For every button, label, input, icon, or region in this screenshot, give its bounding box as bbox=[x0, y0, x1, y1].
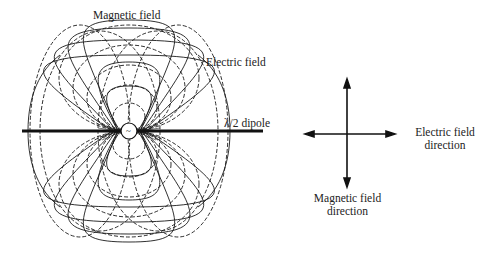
magnetic-direction-label: Magnetic field direction bbox=[305, 192, 390, 218]
magnetic-direction-line2: direction bbox=[305, 205, 390, 218]
electric-field-label: Electric field bbox=[206, 56, 266, 69]
magnetic-field-label: Magnetic field bbox=[93, 9, 160, 22]
magnetic-direction-line1: Magnetic field bbox=[305, 192, 390, 205]
electric-direction-line1: Electric field bbox=[405, 126, 485, 139]
direction-crosshair bbox=[305, 79, 395, 187]
source-icon: ~ bbox=[126, 125, 131, 138]
dipole-label: λ/2 dipole bbox=[224, 117, 270, 130]
electric-direction-label: Electric field direction bbox=[405, 126, 485, 152]
electric-direction-line2: direction bbox=[405, 139, 485, 152]
